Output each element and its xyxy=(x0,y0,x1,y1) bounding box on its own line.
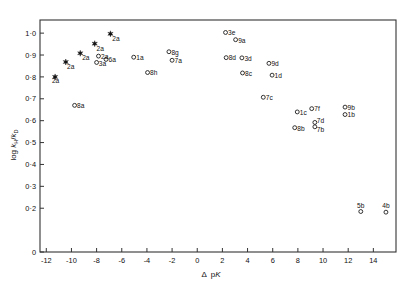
y-tick-label: 0·5 xyxy=(25,138,36,147)
plot-frame xyxy=(40,20,396,252)
data-point: 1c xyxy=(295,109,307,116)
circle-marker-icon xyxy=(343,113,347,117)
data-point: 4b xyxy=(382,202,390,214)
point-label: 4b xyxy=(382,202,390,209)
y-tick-label: 0·9 xyxy=(25,51,36,60)
point-label: 7c xyxy=(266,94,274,101)
point-label: 3e xyxy=(228,29,236,36)
y-label-sub-d: D xyxy=(13,129,19,133)
circle-marker-icon xyxy=(146,71,150,75)
circle-marker-icon xyxy=(132,55,136,59)
point-label: 8a xyxy=(77,102,85,109)
point-label: 7f xyxy=(314,105,320,112)
x-tick-label: -8 xyxy=(93,256,100,265)
y-tick-label: 0·4 xyxy=(25,160,36,169)
circle-marker-icon xyxy=(310,107,314,111)
circle-marker-icon xyxy=(97,54,101,58)
circle-marker-icon xyxy=(270,73,274,77)
point-label: 1a xyxy=(136,54,144,61)
y-tick-label: 0·3 xyxy=(25,182,36,191)
point-label: 8b xyxy=(297,125,305,132)
x-tick-label: -4 xyxy=(144,256,151,265)
point-label: 9a xyxy=(238,37,246,44)
point-label: 7d xyxy=(317,117,325,124)
data-point: 3a xyxy=(95,60,107,67)
x-tick-label: 6 xyxy=(271,256,275,265)
y-tick-label: 1·0 xyxy=(25,29,36,38)
y-tick-label: 0·6 xyxy=(25,116,36,125)
point-label: 9d xyxy=(271,60,279,67)
x-tick-label: 12 xyxy=(344,256,352,265)
y-tick-label: 0·7 xyxy=(25,94,36,103)
data-point: 2a xyxy=(78,50,90,61)
x-tick-label: 2 xyxy=(220,256,224,265)
x-tick-label: -12 xyxy=(41,256,52,265)
circle-marker-icon xyxy=(234,38,238,42)
x-tick-label: -2 xyxy=(169,256,176,265)
point-label: 6a xyxy=(109,56,117,63)
circle-marker-icon xyxy=(224,31,228,35)
point-label: 2a xyxy=(52,77,60,84)
y-axis-label: log kH/kD xyxy=(9,129,19,160)
data-point: 8g xyxy=(167,49,179,57)
circle-marker-icon xyxy=(343,105,347,109)
x-label-delta: Δ xyxy=(201,270,207,279)
x-tick-label: -10 xyxy=(66,256,77,265)
x-tick-label: 8 xyxy=(296,256,300,265)
y-tick-label: 0 xyxy=(32,248,36,257)
data-point: 1a xyxy=(132,54,144,61)
x-tick-label: -6 xyxy=(118,256,125,265)
point-label: 3a xyxy=(99,60,107,67)
circle-marker-icon xyxy=(224,56,228,60)
data-point: 7f xyxy=(310,105,320,112)
circle-marker-icon xyxy=(293,126,297,130)
x-axis-ticks: -12-10-8-6-4-202468101214 xyxy=(41,248,378,265)
svg-text:log kH/kD: log kH/kD xyxy=(9,129,19,160)
y-tick-label: 0·8 xyxy=(25,73,36,82)
data-point: 7c xyxy=(261,94,273,101)
data-point: 5b xyxy=(357,202,365,214)
data-points: 2a2a2a2a2a2a6a3a1a8h8g7a3e9a8d3d8c9d1d7c… xyxy=(52,29,390,214)
data-point: 1b xyxy=(343,111,355,118)
svg-text:ΔpK: ΔpK xyxy=(201,270,221,279)
y-axis-ticks: 00·20·30·40·50·60·70·80·91·0 xyxy=(25,29,44,257)
point-label: 5b xyxy=(357,202,365,209)
x-tick-label: 0 xyxy=(195,256,199,265)
point-label: 8c xyxy=(245,70,253,77)
point-label: 2a xyxy=(82,54,90,61)
data-point: 9d xyxy=(267,60,279,67)
data-point: 3d xyxy=(240,55,252,62)
data-point: 2a xyxy=(108,31,120,43)
data-point: 2a xyxy=(63,59,75,70)
point-label: 1c xyxy=(300,109,308,116)
point-label: 8d xyxy=(229,54,237,61)
point-label: 7a xyxy=(175,57,183,64)
data-point: 9b xyxy=(343,104,355,111)
point-label: 7b xyxy=(317,126,325,133)
point-label: 8g xyxy=(171,49,179,57)
y-label-prefix: log xyxy=(9,148,18,161)
circle-marker-icon xyxy=(267,61,271,65)
scatter-plot-figure: -12-10-8-6-4-202468101214 00·20·30·40·50… xyxy=(0,0,411,288)
data-point: 7d xyxy=(313,117,325,124)
data-point: 8a xyxy=(73,102,85,109)
data-point: 8h xyxy=(146,69,158,76)
point-label: 1b xyxy=(348,111,356,118)
circle-marker-icon xyxy=(167,50,171,54)
data-point: 1d xyxy=(270,72,282,79)
data-point: 2a xyxy=(92,41,104,52)
data-point: 8b xyxy=(293,125,305,132)
circle-marker-icon xyxy=(359,210,363,214)
circle-marker-icon xyxy=(170,58,174,62)
data-point: 3e xyxy=(224,29,236,36)
circle-marker-icon xyxy=(241,71,245,75)
point-label: 8h xyxy=(150,69,158,76)
x-tick-label: 4 xyxy=(245,256,249,265)
point-label: 9b xyxy=(348,104,356,111)
point-label: 2a xyxy=(97,45,105,52)
data-point: 7b xyxy=(313,125,325,133)
circle-marker-icon xyxy=(295,110,299,114)
x-tick-label: 10 xyxy=(319,256,327,265)
circle-marker-icon xyxy=(73,103,77,107)
data-point: 8c xyxy=(241,70,253,77)
